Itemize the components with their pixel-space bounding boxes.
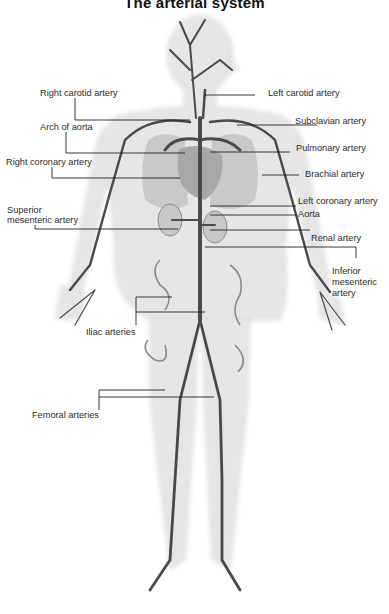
label-brachial-artery: Brachial artery [305,169,364,180]
label-left-coronary-artery: Left coronary artery [298,196,378,207]
label-iliac-arteries: Iliac arteries [86,327,136,338]
label-inferior-mesenteric-line2: mesenteric [332,277,377,288]
label-right-coronary-artery: Right coronary artery [6,157,92,168]
label-femoral-arteries: Femoral arteries [32,410,99,421]
label-superior-mesenteric-line2: mesenteric artery [7,215,78,226]
label-superior-mesenteric-line1: Superior [7,205,42,216]
label-pulmonary-artery: Pulmonary artery [296,143,366,154]
label-right-carotid-artery: Right carotid artery [40,88,118,99]
label-inferior-mesenteric-line3: artery [332,288,356,299]
label-renal-artery: Renal artery [311,233,361,244]
label-inferior-mesenteric-line1: Inferior [332,266,361,277]
label-aorta: Aorta [298,209,320,220]
label-left-carotid-artery: Left carotid artery [268,88,340,99]
label-arch-of-aorta: Arch of aorta [40,122,93,133]
label-subclavian-artery: Subclavian artery [295,116,366,127]
